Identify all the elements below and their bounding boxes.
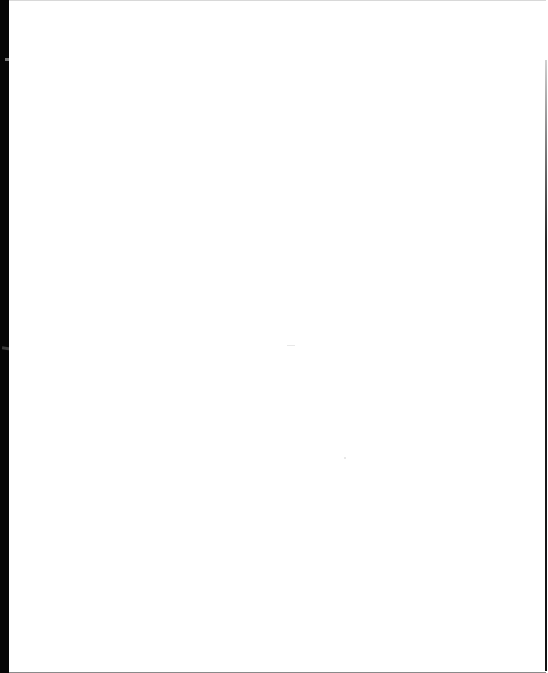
blank-page (9, 0, 546, 673)
scanner-right-edge (545, 60, 547, 671)
scanner-left-margin (0, 0, 9, 673)
scan-speck (344, 457, 346, 459)
scan-speck (287, 345, 295, 346)
